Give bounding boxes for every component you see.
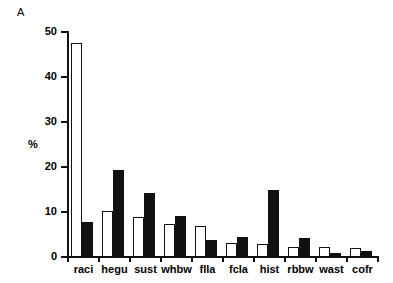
bar-cofr-white — [350, 248, 361, 257]
bar-flla-white — [195, 226, 206, 257]
x-tick-8 — [315, 257, 317, 262]
y-tick-30 — [61, 121, 67, 123]
bar-whbw-black — [175, 216, 186, 257]
bar-hist-black — [268, 190, 279, 257]
x-tick-end — [377, 257, 379, 262]
plot-area — [68, 32, 378, 257]
bar-fcla-white — [226, 243, 237, 257]
bar-fcla-black — [237, 237, 248, 257]
x-tick-3 — [160, 257, 162, 262]
y-axis-tick-labels: 01020304050 — [27, 0, 57, 283]
bar-hegu-black — [113, 170, 124, 257]
bar-raci-white — [71, 43, 82, 257]
figure-panel-a: A % 01020304050 racihegusustwhbwfllafcla… — [0, 0, 393, 283]
bar-sust-white — [133, 217, 144, 257]
y-tick-50 — [61, 31, 67, 33]
x-tick-0 — [67, 257, 69, 262]
x-tick-1 — [98, 257, 100, 262]
bar-whbw-white — [164, 224, 175, 257]
x-tick-9 — [346, 257, 348, 262]
y-tick-label-0: 0 — [29, 251, 57, 262]
x-axis-label-cofr: cofr — [338, 263, 388, 275]
x-tick-5 — [222, 257, 224, 262]
bar-hegu-white — [102, 211, 113, 257]
bar-rbbw-white — [288, 247, 299, 257]
bar-rbbw-black — [299, 238, 310, 257]
y-tick-10 — [61, 211, 67, 213]
x-tick-6 — [253, 257, 255, 262]
bar-wast-black — [330, 253, 341, 258]
bar-wast-white — [319, 247, 330, 257]
bar-hist-white — [257, 244, 268, 257]
y-tick-label-40: 40 — [29, 71, 57, 82]
x-tick-4 — [191, 257, 193, 262]
y-tick-20 — [61, 166, 67, 168]
bar-flla-black — [206, 240, 217, 257]
y-tick-label-30: 30 — [29, 116, 57, 127]
x-tick-2 — [129, 257, 131, 262]
bar-cofr-black — [361, 251, 372, 257]
y-tick-label-50: 50 — [29, 26, 57, 37]
x-tick-7 — [284, 257, 286, 262]
bar-raci-black — [82, 222, 93, 257]
y-tick-40 — [61, 76, 67, 78]
bar-sust-black — [144, 193, 155, 257]
y-tick-label-10: 10 — [29, 206, 57, 217]
y-tick-label-20: 20 — [29, 161, 57, 172]
panel-label: A — [17, 6, 24, 18]
